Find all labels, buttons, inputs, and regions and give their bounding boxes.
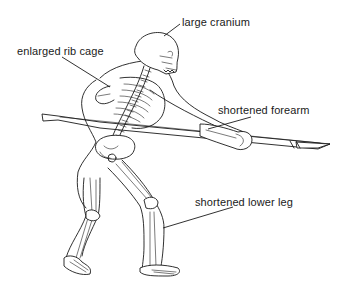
leader-ribcage [62, 57, 110, 87]
label-large-cranium: large cranium [182, 16, 250, 28]
rear-leg-icon [64, 178, 100, 275]
label-enlarged-rib-cage: enlarged rib cage [17, 45, 104, 57]
skull-icon [135, 33, 179, 75]
label-shortened-lower-leg: shortened lower leg [195, 196, 293, 208]
label-shortened-forearm: shortened forearm [218, 104, 310, 116]
leader-forearm [208, 117, 251, 129]
leader-cranium [164, 24, 180, 36]
pelvis-icon [95, 135, 134, 162]
skeleton-diagram: large cranium enlarged rib cage shortene… [0, 0, 350, 294]
leader-lowerleg [163, 207, 233, 228]
front-leg-icon [108, 160, 180, 276]
